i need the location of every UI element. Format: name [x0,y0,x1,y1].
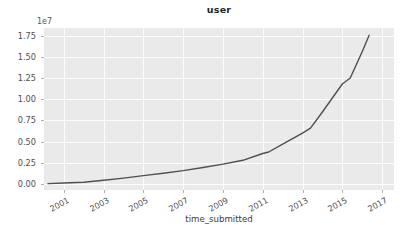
x-tick-label-2017: 2017 [363,195,389,215]
y-tick-label-0.00: 0.00 [2,179,36,189]
x-tick-label-2007: 2007 [164,195,190,215]
y-tick-label-1.00: 1.00 [2,94,36,104]
y-tick-mark-2 [41,142,44,143]
plot-area [44,28,394,190]
chart-title: user [44,4,394,15]
x-tick-mark-0 [64,190,65,193]
y-tick-mark-5 [41,78,44,79]
y-tick-mark-3 [41,120,44,121]
y-tick-label-1.50: 1.50 [2,52,36,62]
x-tick-label-2015: 2015 [323,195,349,215]
y-tick-mark-1 [41,163,44,164]
y-axis-offset-label: 1e7 [37,17,52,26]
y-tick-mark-6 [41,57,44,58]
y-tick-mark-0 [41,184,44,185]
matplotlib-figure: user 1e7 time_submitted 0.000.250.500.75… [0,0,405,235]
data-series-line [44,28,394,190]
x-tick-label-2013: 2013 [284,195,310,215]
x-tick-label-2001: 2001 [45,195,71,215]
x-tick-mark-3 [183,190,184,193]
y-tick-label-0.75: 0.75 [2,115,36,125]
y-tick-label-1.25: 1.25 [2,73,36,83]
y-tick-label-1.75: 1.75 [2,31,36,41]
series-line-user [48,35,369,183]
x-tick-mark-8 [382,190,383,193]
x-axis-label: time_submitted [44,214,394,224]
x-tick-mark-1 [104,190,105,193]
x-tick-label-2009: 2009 [204,195,230,215]
x-tick-mark-6 [303,190,304,193]
y-tick-mark-7 [41,36,44,37]
x-tick-label-2011: 2011 [244,195,270,215]
y-tick-mark-4 [41,99,44,100]
x-tick-label-2005: 2005 [124,195,150,215]
x-tick-mark-4 [223,190,224,193]
x-tick-mark-7 [342,190,343,193]
x-tick-label-2003: 2003 [85,195,111,215]
x-tick-mark-5 [263,190,264,193]
y-tick-label-0.50: 0.50 [2,137,36,147]
x-tick-mark-2 [143,190,144,193]
y-tick-label-0.25: 0.25 [2,158,36,168]
